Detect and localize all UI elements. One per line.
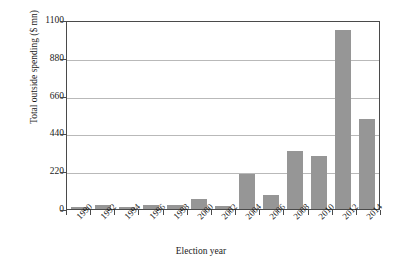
bar [311,156,327,209]
x-axis-label: Election year [0,246,402,256]
bar [359,119,375,209]
bar-series [67,22,379,209]
plot-area [66,21,380,210]
y-axis-tick-label: 880 [22,54,64,64]
y-axis-tick-label: 1100 [22,16,64,26]
x-axis-tick-mark [66,210,67,215]
y-axis-tick-label: 0 [22,205,64,215]
y-axis-tick-label: 220 [22,167,64,177]
y-axis-tick-label: 660 [22,92,64,102]
y-axis-tick-label: 440 [22,129,64,139]
bar-chart-figure: Total outside spending ($ mn) 0220440660… [0,0,402,271]
bar [335,30,351,209]
bar [287,151,303,209]
